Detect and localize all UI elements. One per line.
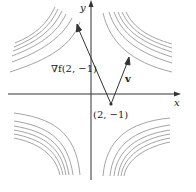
x-axis-label: x <box>174 98 180 108</box>
y-axis-arrow-icon <box>89 0 94 7</box>
x-axis-arrow-icon <box>174 92 181 97</box>
y-axis-label: y <box>80 3 86 13</box>
vector-v-label: v <box>125 74 131 84</box>
level-curves-q3 <box>14 113 80 175</box>
level-curves-q1 <box>103 12 172 72</box>
level-curves-q4 <box>103 118 170 176</box>
point-marker <box>109 102 112 105</box>
v-arrowhead-icon <box>125 57 130 65</box>
gradient-label: ∇f(2, −1) <box>51 64 97 74</box>
diagram-canvas <box>0 0 196 192</box>
axes <box>8 4 176 180</box>
point-label: (2, −1) <box>93 110 128 120</box>
